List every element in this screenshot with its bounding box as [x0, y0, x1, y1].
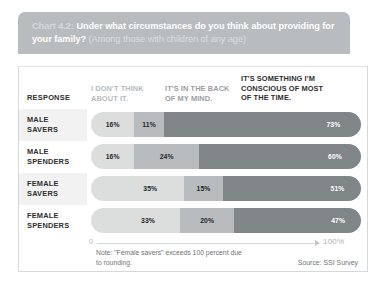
bar-value: 35%	[143, 185, 157, 192]
axis-tick-zero: 0	[89, 238, 93, 245]
chart-footer: Note: "Female savers" exceeds 100 percen…	[18, 248, 368, 278]
bar-segment-back-of-mind: 15%	[184, 176, 224, 201]
row-label-line-2: SAVERS	[27, 125, 87, 135]
legend-line-2: ABOUT IT.	[91, 94, 159, 104]
bar-segment-dont-think: 16%	[91, 112, 134, 137]
chart-container: Chart 4.2: Under what circumstances do y…	[0, 0, 386, 294]
row-label-line-2: SAVERS	[27, 189, 87, 199]
bar-value: 60%	[328, 153, 342, 160]
stacked-bar-male-spenders: 16% 24% 60%	[91, 144, 361, 169]
table-row: MALE SPENDERS 16% 24% 60%	[19, 141, 367, 173]
row-label-line-1: MALE	[27, 115, 87, 125]
bar-value: 47%	[331, 217, 345, 224]
row-label-line-1: FEMALE	[27, 211, 87, 221]
legend-line-2: OF MY MIND.	[165, 94, 241, 104]
legend-line-2: CONSCIOUS OF MOST	[241, 84, 333, 94]
row-label-male-savers: MALE SAVERS	[19, 109, 87, 141]
bar-value: 16%	[106, 153, 120, 160]
bar-segment-back-of-mind: 11%	[134, 112, 164, 137]
row-label-female-spenders: FEMALE SPENDERS	[19, 205, 87, 237]
bar-value: 73%	[326, 121, 340, 128]
row-label-line-1: FEMALE	[27, 179, 87, 189]
table-row: FEMALE SAVERS 35% 15% 51%	[19, 173, 367, 205]
chart-title-band: Chart 4.2: Under what circumstances do y…	[18, 12, 350, 54]
bar-value: 11%	[142, 121, 156, 128]
bar-value: 16%	[106, 121, 120, 128]
axis-arrow-icon	[315, 240, 320, 246]
bar-segment-dont-think: 33%	[91, 208, 180, 233]
axis-line	[97, 243, 315, 244]
stacked-bar-female-spenders: 33% 20% 47%	[91, 208, 361, 233]
bar-segment-conscious: 51%	[223, 176, 361, 201]
legend-line-1: I DON'T THINK	[91, 84, 159, 94]
chart-note: Note: "Female savers" exceeds 100 percen…	[96, 248, 246, 269]
response-column-header: RESPONSE	[27, 93, 70, 102]
bar-segment-conscious: 60%	[199, 144, 361, 169]
legend-line-1: IT'S SOMETHING I'M	[241, 74, 333, 84]
bar-segment-back-of-mind: 24%	[134, 144, 199, 169]
column-header-row: RESPONSE I DON'T THINK ABOUT IT. IT'S IN…	[19, 67, 367, 107]
bar-value: 20%	[200, 217, 214, 224]
row-label-line-1: MALE	[27, 147, 87, 157]
bar-segment-dont-think: 16%	[91, 144, 134, 169]
row-label-male-spenders: MALE SPENDERS	[19, 141, 87, 173]
legend-item-back-of-my-mind: IT'S IN THE BACK OF MY MIND.	[165, 84, 241, 103]
bar-segment-back-of-mind: 20%	[180, 208, 234, 233]
bar-segment-conscious: 47%	[234, 208, 361, 233]
bar-value: 33%	[141, 217, 155, 224]
bar-value: 24%	[160, 153, 174, 160]
row-label-line-2: SPENDERS	[27, 157, 87, 167]
chart-source: Source: SSI Survey	[298, 259, 358, 266]
legend-item-dont-think-about-it: I DON'T THINK ABOUT IT.	[91, 84, 159, 103]
bar-segment-conscious: 73%	[164, 112, 361, 137]
bar-value: 51%	[331, 185, 345, 192]
stacked-bar-male-savers: 16% 11% 73%	[91, 112, 361, 137]
legend-item-conscious-most-of-time: IT'S SOMETHING I'M CONSCIOUS OF MOST OF …	[241, 74, 333, 103]
bar-value: 15%	[197, 185, 211, 192]
row-label-line-2: SPENDERS	[27, 221, 87, 231]
chart-qualifier: (Among those with children of any age)	[89, 34, 246, 44]
chart-number: Chart 4.2:	[32, 21, 74, 31]
row-label-female-savers: FEMALE SAVERS	[19, 173, 87, 205]
stacked-bar-female-savers: 35% 15% 51%	[91, 176, 361, 201]
axis-tick-max: 100%	[323, 237, 344, 246]
table-row: FEMALE SPENDERS 33% 20% 47%	[19, 205, 367, 237]
bar-segment-dont-think: 35%	[91, 176, 184, 201]
legend-line-1: IT'S IN THE BACK	[165, 84, 241, 94]
legend-line-3: OF THE TIME.	[241, 93, 333, 103]
table-row: MALE SAVERS 16% 11% 73%	[19, 109, 367, 141]
chart-title: Chart 4.2: Under what circumstances do y…	[32, 20, 336, 45]
chart-plot-area: RESPONSE I DON'T THINK ABOUT IT. IT'S IN…	[18, 66, 368, 272]
